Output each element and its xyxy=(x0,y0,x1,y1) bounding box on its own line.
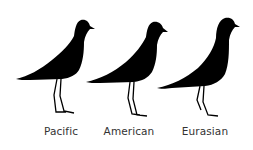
american-plover-silhouette-icon xyxy=(86,22,168,116)
pacific-plover-silhouette-icon xyxy=(16,20,95,113)
label-pacific: Pacific xyxy=(44,125,78,137)
label-american: American xyxy=(104,125,155,137)
eurasian-plover-silhouette-icon xyxy=(157,18,240,116)
label-eurasian: Eurasian xyxy=(182,125,228,137)
